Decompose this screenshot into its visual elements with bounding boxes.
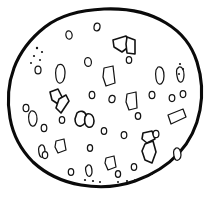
dot-1 [41, 51, 43, 53]
chip-rect-left-upper-part-0 [56, 64, 65, 83]
dot-5 [179, 63, 181, 65]
chip-rect-far-left-part-0 [29, 111, 37, 126]
speck-oval-8 [42, 152, 47, 159]
speck-oval-19 [87, 145, 92, 152]
chip-rect-right-upper [156, 67, 164, 84]
dot-9 [92, 180, 94, 182]
speck-oval-7 [41, 124, 47, 131]
dot-12 [126, 180, 128, 182]
chip-rect-far-left [29, 111, 37, 126]
dot-10 [99, 181, 101, 183]
chip-rect-upper-center-part-0 [103, 66, 115, 86]
chip-rect-center-right [126, 92, 137, 110]
speck-oval-17 [131, 164, 136, 171]
chip-rect-right-upper-part-0 [156, 67, 164, 84]
speck-oval-6 [23, 104, 29, 111]
speck-oval-14 [153, 130, 159, 137]
speck-oval-20 [59, 117, 64, 124]
chip-rect-lower-left-part-0 [55, 139, 66, 153]
speck-oval-1 [94, 23, 101, 31]
chip-rect-lower-left [55, 139, 66, 153]
chip-rect-right-low-part-0 [174, 148, 181, 160]
speck-oval-18 [115, 171, 120, 178]
speck-oval-15 [169, 95, 175, 102]
chip-rect-center-right-part-0 [126, 92, 137, 110]
chip-rect-bottom-left-small [86, 165, 92, 176]
speck-oval-13 [149, 91, 155, 98]
dot-6 [182, 68, 184, 70]
dot-11 [117, 181, 119, 183]
chip-rect-upper-center [103, 66, 115, 86]
dot-15 [151, 173, 153, 175]
chip-vpair-top-right-part-1 [126, 37, 135, 54]
speck-oval-12 [135, 113, 140, 120]
speck-oval-4 [108, 95, 115, 103]
chip-rect-left-upper [56, 64, 65, 83]
speck-oval-9 [68, 169, 73, 176]
chip-rect-bottom-center-part-0 [105, 156, 116, 170]
chip-rect-bottom-left-small-part-0 [86, 165, 92, 176]
dot-8 [84, 179, 86, 181]
speck-oval-5 [35, 66, 41, 74]
dot-13 [134, 179, 136, 181]
chip-rect-right-low [174, 148, 181, 160]
speck-oval-21 [126, 57, 131, 64]
dot-7 [178, 73, 180, 75]
dot-3 [39, 59, 41, 61]
speck-oval-2 [84, 57, 92, 66]
dot-0 [36, 47, 38, 49]
cookie-illustration: Chocolate chip cookie line drawing [0, 0, 211, 197]
chip-rect-bottom-center [105, 156, 116, 170]
chip-hook-bottom-right-part-1 [142, 141, 156, 163]
dot-4 [30, 62, 32, 64]
speck-oval-11 [121, 132, 127, 139]
dot-2 [33, 55, 35, 57]
speck-oval-10 [101, 128, 106, 135]
cookie-drawing-canvas [0, 0, 211, 197]
chip-pair-center-left-part-1 [85, 114, 94, 127]
dot-14 [144, 176, 146, 178]
speck-oval-3 [89, 91, 95, 98]
speck-oval-16 [180, 91, 186, 98]
